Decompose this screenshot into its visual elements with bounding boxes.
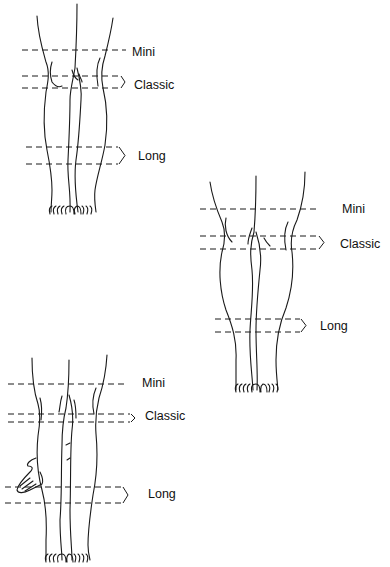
figure-2-measure-lines bbox=[200, 209, 324, 332]
figure-1-measure-lines bbox=[22, 50, 126, 164]
figure-3-legs bbox=[17, 355, 107, 562]
figure-2-legs bbox=[210, 172, 305, 392]
figure-3-classic-bracket bbox=[131, 414, 135, 422]
figure-3-mini-label: Mini bbox=[142, 377, 165, 390]
figure-3-classic-label: Classic bbox=[145, 410, 185, 423]
figure-2-mini-label: Mini bbox=[342, 203, 365, 216]
figure-1-long-bracket bbox=[119, 147, 125, 164]
figure-3-long-bracket bbox=[123, 487, 128, 503]
figure-1-classic-bracket bbox=[121, 76, 125, 88]
figure-1-long-label: Long bbox=[138, 150, 166, 163]
figure-1-legs bbox=[37, 4, 113, 214]
figure-2-long-label: Long bbox=[320, 320, 348, 333]
figure-3-long-label: Long bbox=[148, 488, 176, 501]
diagram-canvas bbox=[0, 0, 390, 567]
figure-2-classic-label: Classic bbox=[340, 238, 380, 251]
figure-2-long-bracket bbox=[301, 319, 306, 332]
figure-2-classic-bracket bbox=[319, 236, 324, 249]
figure-1-mini-label: Mini bbox=[132, 46, 155, 59]
figure-1-classic-label: Classic bbox=[134, 79, 174, 92]
